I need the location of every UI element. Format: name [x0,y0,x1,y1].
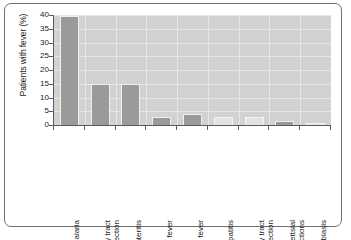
plot-area [53,15,331,126]
x-category-label: Viral hepatitis [226,220,235,237]
y-tick-label: 25 [23,52,49,60]
bar [245,117,264,125]
x-axis-category-labels: MalariaRespiratory tract infectionGastro… [53,130,331,222]
bar-series [54,15,331,125]
y-axis-tick-labels: 0510152025303540 [23,15,49,125]
bar [121,84,140,125]
x-category-label: Respiratory tract infection [103,220,121,237]
y-tick-label: 40 [23,11,49,19]
bar [214,117,233,125]
x-category-label: Rickettsial infections [288,220,306,237]
x-category-label: Urinary tract infection [257,220,275,237]
bar [183,114,202,125]
x-category-label: Malaria [72,220,81,237]
bar [60,16,79,125]
y-tick-label: 10 [23,94,49,102]
bar [152,117,171,125]
x-category-label: Gastroenteritis [134,220,143,237]
x-category-label: Enteric fever [165,220,174,237]
bar [306,123,325,125]
x-category-label: Amoebiasis [319,220,328,237]
y-tick-label: 30 [23,39,49,47]
y-tick-label: 5 [23,107,49,115]
y-tick-label: 20 [23,66,49,74]
bar [275,121,294,125]
figure-frame: Patients with fever (%) 0510152025303540… [4,3,342,227]
x-category-label: Dengue fever [196,220,205,237]
bar [91,84,110,125]
y-tick-label: 15 [23,80,49,88]
chart-container: Patients with fever (%) 0510152025303540… [5,4,343,228]
y-tick-label: 0 [23,121,49,129]
y-tick-label: 35 [23,25,49,33]
